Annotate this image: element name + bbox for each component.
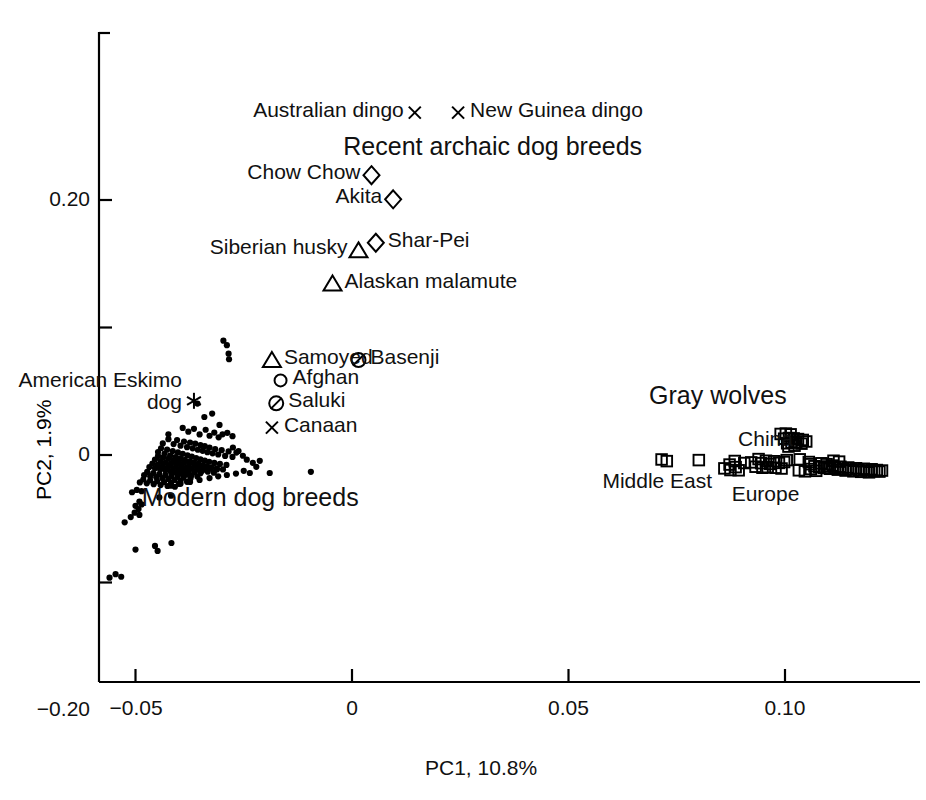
x-tick-label: 0.05 [543,697,595,719]
data-point-dog [235,448,241,454]
data-point-dog [165,436,171,442]
data-point-dog [224,342,230,348]
data-point-dog [206,445,212,451]
data-point-dog [180,425,186,431]
data-point-dog [191,426,197,432]
data-points-group [106,338,887,581]
data-point-dog [181,438,187,444]
point-label: Shar-Pei [388,229,470,251]
x-tick-label: 0.10 [759,697,811,719]
data-point-dog [154,548,160,554]
data-point-dog [174,437,180,443]
point-label: Canaan [284,414,358,436]
x-tick-label: 0 [326,697,378,719]
point-label: Alaskan malamute [345,270,518,292]
data-point-dog [158,445,164,451]
data-point-dog [196,431,202,437]
marker-diamond [363,166,379,184]
marker-diamond [368,234,384,252]
point-label: Basenji [370,346,439,368]
subgroup-label: Europe [303,483,926,505]
data-point-dog [229,433,235,439]
marker-x [266,422,278,434]
data-point-dog [136,512,142,518]
data-point-dog [209,410,215,416]
x-axis-title: PC1, 10.8% [425,757,537,779]
data-point-dog [164,447,170,453]
marker-diamond [385,190,401,208]
data-point-dog [118,574,124,580]
marker-triangle [324,276,342,291]
marker-asterisk [187,393,201,409]
data-point-dog [230,444,236,450]
data-point-dog [244,457,250,463]
data-point-dog [170,448,176,454]
subgroup-label: China [303,428,926,450]
axes-group [99,32,920,682]
data-point-dog [128,514,134,520]
data-point-dog [185,429,191,435]
y-tick-label: 0.20 [10,188,90,210]
point-label: New Guinea dingo [470,99,643,121]
pca-scatter-figure: −0.0500.050.10 −0.2000.20 PC1, 10.8% PC2… [0,0,926,800]
data-point-dog [211,429,217,435]
data-point-dog [106,575,112,581]
marker-triangle [263,352,281,367]
data-point-dog [203,427,209,433]
x-tick-label: −0.05 [110,697,162,719]
data-point-dog [223,462,229,468]
data-point-dog [168,540,174,546]
data-point-dog [122,519,128,525]
data-point-dog [226,356,232,362]
point-label: Afghan [293,366,360,388]
data-point-dog [219,447,225,453]
point-label: American Eskimo dog [19,369,182,413]
data-point-dog [201,414,207,420]
marker-triangle [349,242,367,257]
point-label: Saluki [288,389,345,411]
point-label: Australian dingo [253,99,404,121]
marker-x [452,107,464,119]
data-point-dog [225,351,231,357]
group-label: Recent archaic dog breeds [30,133,926,159]
point-label: Akita [335,185,382,207]
point-label: Siberian husky [210,236,348,258]
data-point-dog [224,430,230,436]
data-point-dog [212,446,218,452]
data-point-dog [217,461,223,467]
data-point-dog [112,571,118,577]
data-point-dog [187,439,193,445]
point-label: Chow Chow [247,161,360,183]
data-point-dog [257,458,263,464]
data-point-wolf [694,455,705,466]
y-tick-label: −0.20 [10,698,90,720]
data-point-dog [192,441,198,447]
data-point-dog [216,422,222,428]
data-point-dog [211,460,217,466]
data-point-dog [132,547,138,553]
data-point-dog [206,459,212,465]
marker-x [409,107,421,119]
